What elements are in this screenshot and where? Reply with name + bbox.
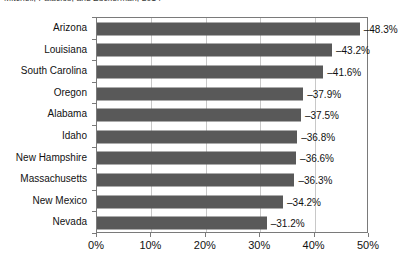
bar-row: –37.5% [97, 104, 367, 126]
x-tick [205, 233, 206, 237]
y-tick [92, 39, 96, 40]
bar [97, 195, 283, 208]
category-label: Arizona [0, 17, 92, 39]
y-tick [92, 211, 96, 212]
x-tick [150, 233, 151, 237]
bar [97, 65, 323, 78]
bar-row: –48.3% [97, 18, 367, 40]
plot-area: –48.3%–43.2%–41.6%–37.9%–37.5%–36.8%–36.… [96, 17, 368, 233]
bar-row: –34.2% [97, 191, 367, 213]
x-tick-label: 30% [248, 239, 270, 251]
y-tick [92, 125, 96, 126]
x-tick [96, 233, 97, 237]
x-tick-label: 0% [88, 239, 104, 251]
y-tick [92, 147, 96, 148]
bar [97, 173, 294, 186]
bar-value-label: –48.3% [360, 23, 398, 34]
bar-value-label: –37.9% [303, 88, 341, 99]
bar [97, 217, 267, 230]
x-tick-label: 40% [303, 239, 325, 251]
bar-row: –37.9% [97, 83, 367, 105]
x-tick-label: 50% [357, 239, 379, 251]
category-label: New Mexico [0, 190, 92, 212]
category-label: Oregon [0, 82, 92, 104]
x-tick-label: 10% [139, 239, 161, 251]
bar-value-label: –31.2% [267, 218, 305, 229]
bar-row: –31.2% [97, 212, 367, 234]
bar-row: –41.6% [97, 61, 367, 83]
bar-value-label: –36.8% [297, 131, 335, 142]
bar-row: –36.6% [97, 148, 367, 170]
y-tick [92, 82, 96, 83]
y-tick [92, 190, 96, 191]
bar [97, 87, 303, 100]
bar [97, 109, 301, 122]
x-tick [314, 233, 315, 237]
bar-chart: ArizonaLouisianaSouth CarolinaOregonAlab… [0, 0, 407, 265]
bar-value-label: –36.3% [294, 174, 332, 185]
x-tick [368, 233, 369, 237]
category-label: Nevada [0, 211, 92, 233]
bar [97, 44, 332, 57]
bar-row: –36.3% [97, 169, 367, 191]
y-tick [92, 233, 96, 234]
x-tick [259, 233, 260, 237]
category-label: Idaho [0, 125, 92, 147]
bar-value-label: –41.6% [323, 66, 361, 77]
bar-value-label: –34.2% [283, 196, 321, 207]
bar-rows: –48.3%–43.2%–41.6%–37.9%–37.5%–36.8%–36.… [97, 18, 367, 232]
y-tick [92, 103, 96, 104]
y-tick [92, 17, 96, 18]
category-label: Louisiana [0, 39, 92, 61]
category-label: New Hampshire [0, 147, 92, 169]
bar-value-label: –37.5% [301, 110, 339, 121]
y-tick [92, 60, 96, 61]
bar-value-label: –43.2% [332, 45, 370, 56]
bar [97, 22, 360, 35]
category-label: Alabama [0, 103, 92, 125]
x-tick-label: 20% [194, 239, 216, 251]
bar-row: –36.8% [97, 126, 367, 148]
bar-row: –43.2% [97, 40, 367, 62]
bar-value-label: –36.6% [296, 153, 334, 164]
category-label: Massachusetts [0, 168, 92, 190]
bar [97, 130, 297, 143]
bar [97, 152, 296, 165]
category-label: South Carolina [0, 60, 92, 82]
y-tick [92, 168, 96, 169]
category-axis-labels: ArizonaLouisianaSouth CarolinaOregonAlab… [0, 17, 92, 233]
